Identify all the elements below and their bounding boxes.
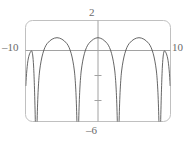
y-axis-min-label: –6 [86,125,97,136]
x-axis-max-label: 10 [172,42,183,53]
curve-segment-right-partial [161,51,171,125]
x-axis-min-label: –10 [2,42,19,53]
plot-canvas [0,0,189,144]
curve-segment-left-partial [26,51,36,125]
chart-figure: –10 10 2 –6 [0,0,189,144]
y-axis-max-label: 2 [89,7,95,18]
